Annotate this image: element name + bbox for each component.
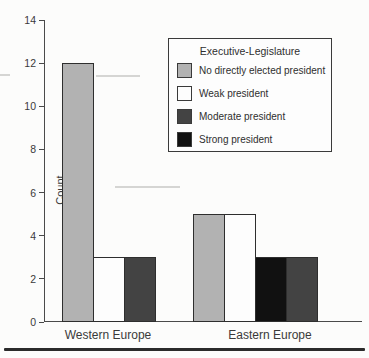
legend-entry-label: Strong president xyxy=(199,134,272,145)
y-tick-mark xyxy=(39,278,44,279)
scan-artifact xyxy=(96,75,140,77)
y-tick-label: 6 xyxy=(2,187,36,199)
y-axis-line xyxy=(44,20,45,322)
bar xyxy=(255,257,287,322)
page-divider xyxy=(4,348,365,351)
y-tick-label: 8 xyxy=(2,143,36,155)
legend-swatch xyxy=(177,63,192,78)
bar xyxy=(193,214,225,322)
bar xyxy=(224,214,256,322)
y-tick-mark xyxy=(39,235,44,236)
bar xyxy=(286,257,318,322)
legend: Executive-Legislature No directly electe… xyxy=(168,38,332,152)
legend-swatch xyxy=(177,86,192,101)
y-tick-mark xyxy=(39,63,44,64)
scan-artifact xyxy=(115,186,180,188)
y-tick-label: 14 xyxy=(2,14,36,26)
legend-entry-label: Weak president xyxy=(199,88,268,99)
bar xyxy=(62,63,94,322)
x-category-label: Western Europe xyxy=(38,328,178,342)
y-tick-label: 10 xyxy=(2,100,36,112)
y-tick-label: 0 xyxy=(2,316,36,328)
figure: Count 02468101214 Western EuropeEastern … xyxy=(0,0,369,358)
y-tick-mark xyxy=(39,20,44,21)
y-tick-mark xyxy=(39,149,44,150)
y-tick-mark xyxy=(39,322,44,323)
x-category-label: Eastern Europe xyxy=(200,328,340,342)
legend-entry-label: No directly elected president xyxy=(199,65,325,76)
legend-title: Executive-Legislature xyxy=(169,45,331,57)
bar xyxy=(93,257,125,322)
y-tick-label: 12 xyxy=(2,57,36,69)
bar xyxy=(124,257,156,322)
legend-swatch xyxy=(177,132,192,147)
y-tick-mark xyxy=(39,192,44,193)
scan-artifact xyxy=(0,74,10,76)
y-tick-label: 2 xyxy=(2,273,36,285)
legend-swatch xyxy=(177,109,192,124)
legend-entry-label: Moderate president xyxy=(199,111,285,122)
y-tick-mark xyxy=(39,106,44,107)
y-tick-label: 4 xyxy=(2,230,36,242)
